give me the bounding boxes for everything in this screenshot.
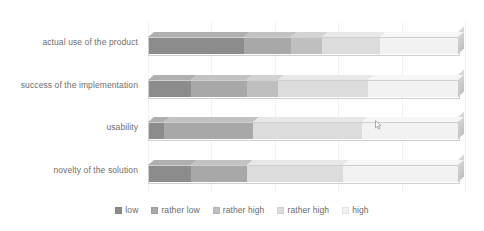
legend-swatch-icon xyxy=(342,207,349,214)
bar-side-face xyxy=(458,27,464,54)
bar-segment[interactable] xyxy=(148,165,191,182)
bar-segment[interactable] xyxy=(291,37,322,54)
bar-side-face xyxy=(458,112,464,139)
legend-item[interactable]: high xyxy=(342,205,368,215)
legend-item[interactable]: rather high xyxy=(213,205,265,215)
bar-segment[interactable] xyxy=(191,80,247,97)
legend-swatch-icon xyxy=(115,207,122,214)
legend-swatch-icon xyxy=(213,207,220,214)
category-axis: actual use of the productsuccess of the … xyxy=(0,22,142,192)
bar-segment[interactable] xyxy=(368,80,458,97)
bar-2[interactable] xyxy=(148,75,458,97)
bar-4[interactable] xyxy=(148,160,458,182)
chart-legend: lowrather lowrather highrather highhigh xyxy=(0,203,484,217)
legend-item[interactable]: low xyxy=(115,205,138,215)
legend-swatch-icon xyxy=(277,207,284,214)
legend-label: rather high xyxy=(223,205,265,215)
category-label: novelty of the solution xyxy=(0,165,138,175)
category-label: actual use of the product xyxy=(0,37,138,47)
legend-label: rather low xyxy=(161,205,199,215)
bar-front-face xyxy=(148,122,458,139)
bar-segment[interactable] xyxy=(247,80,278,97)
plot-area xyxy=(148,22,465,192)
bar-front-face xyxy=(148,165,458,182)
bar-segment[interactable] xyxy=(148,80,191,97)
bar-segment[interactable] xyxy=(191,165,247,182)
legend-item[interactable]: rather low xyxy=(151,205,199,215)
bar-segment[interactable] xyxy=(244,37,291,54)
bar-side-face xyxy=(458,69,464,96)
bar-segment[interactable] xyxy=(278,80,368,97)
legend-item[interactable]: rather high xyxy=(277,205,329,215)
legend-label: low xyxy=(125,205,138,215)
category-label: success of the implementation xyxy=(0,80,138,90)
bar-segment[interactable] xyxy=(322,37,381,54)
bar-segment[interactable] xyxy=(148,37,244,54)
bar-segment[interactable] xyxy=(164,122,254,139)
legend-swatch-icon xyxy=(151,207,158,214)
bar-segment[interactable] xyxy=(343,165,458,182)
bar-segment[interactable] xyxy=(380,37,458,54)
legend-label: rather high xyxy=(287,205,329,215)
bar-front-face xyxy=(148,80,458,97)
bar-side-face xyxy=(458,154,464,181)
bar-segment[interactable] xyxy=(253,122,362,139)
bar-3[interactable] xyxy=(148,117,458,139)
bar-1[interactable] xyxy=(148,32,458,54)
chart-root: actual use of the productsuccess of the … xyxy=(0,0,484,231)
category-label: usability xyxy=(0,122,138,132)
legend-label: high xyxy=(352,205,368,215)
bar-segment[interactable] xyxy=(148,122,164,139)
bar-segment[interactable] xyxy=(362,122,458,139)
bar-front-face xyxy=(148,37,458,54)
bar-segment[interactable] xyxy=(247,165,343,182)
gridline-100 xyxy=(465,22,466,192)
